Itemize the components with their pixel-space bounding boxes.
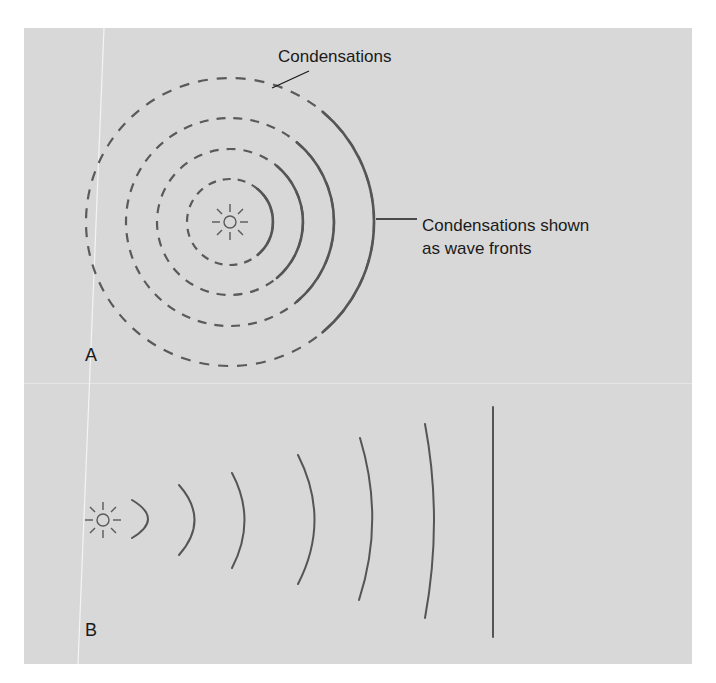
wavefront-b-5 [359,438,372,600]
sound-source-icon [85,502,121,538]
wavefront-b-2 [179,485,195,555]
panel-b-wavefronts [132,407,493,637]
wavefront-arc-1 [258,189,273,255]
panel-b-letter: B [85,620,97,641]
wavefront-b-1 [132,500,148,538]
condensations-label: Condensations [278,45,391,68]
wavefronts-label-line1: Condensations shown [422,214,589,237]
wavefront-arc-4 [323,112,374,333]
wave-diagram [0,0,716,683]
sound-source-icon [212,204,248,240]
wavefront-arc-2 [277,166,303,278]
panel-a-letter: A [85,345,97,366]
panel-a-circles [86,78,374,366]
wavefront-b-3 [232,473,245,568]
panel-a-wavefronts [258,112,374,333]
wavefront-b-4 [298,455,315,584]
dashed-circle-4 [86,78,374,366]
wavefront-b-6 [425,424,434,618]
condensations-leader [272,71,309,88]
wavefronts-label-line2: as wave fronts [422,237,532,260]
